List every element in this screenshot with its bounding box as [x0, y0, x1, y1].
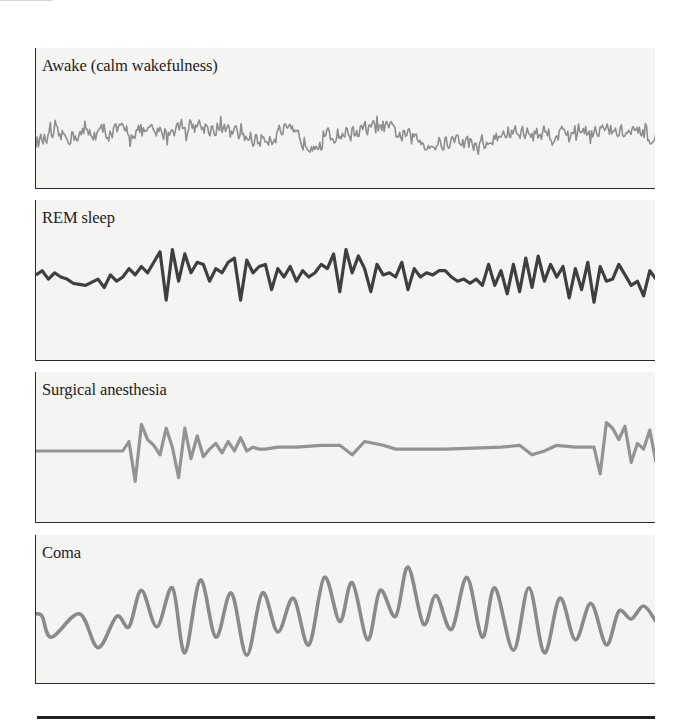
surgical-eeg-trace — [36, 423, 655, 482]
panel-rem: REM sleep — [35, 200, 655, 361]
panel-label-surgical: Surgical anesthesia — [42, 380, 167, 400]
rem-trace-svg — [36, 200, 655, 361]
rem-eeg-trace — [36, 250, 655, 303]
panel-label-awake: Awake (calm wakefulness) — [42, 56, 218, 76]
panel-label-rem: REM sleep — [42, 208, 115, 228]
bottom-rule — [37, 716, 655, 719]
top-rule — [0, 0, 52, 1]
panel-awake: Awake (calm wakefulness) — [35, 48, 655, 189]
coma-trace-svg — [36, 535, 655, 684]
panel-coma: Coma — [35, 535, 655, 684]
panel-surgical: Surgical anesthesia — [35, 372, 655, 523]
panel-label-coma: Coma — [42, 543, 81, 563]
coma-eeg-trace — [36, 567, 655, 655]
awake-eeg-trace — [36, 116, 655, 154]
